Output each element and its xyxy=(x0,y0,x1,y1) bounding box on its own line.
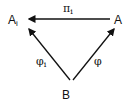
phi-i-subscript: i xyxy=(44,60,47,69)
phi-i-symbol: φ xyxy=(36,55,44,68)
node-a-label: A xyxy=(114,13,122,27)
node-b: B xyxy=(62,89,70,101)
edge-label-phi: φ xyxy=(94,56,102,68)
node-a: A xyxy=(114,14,122,26)
node-a-i-label: A xyxy=(8,13,16,27)
phi-symbol: φ xyxy=(94,55,102,68)
node-a-i-subscript: i xyxy=(16,19,18,28)
node-b-label: B xyxy=(62,88,70,102)
pi-subscript: i xyxy=(70,7,73,16)
edge-label-phi-i: φi xyxy=(36,56,46,71)
edge-label-pi-i: πi xyxy=(63,3,73,18)
node-a-i: Ai xyxy=(8,14,18,30)
